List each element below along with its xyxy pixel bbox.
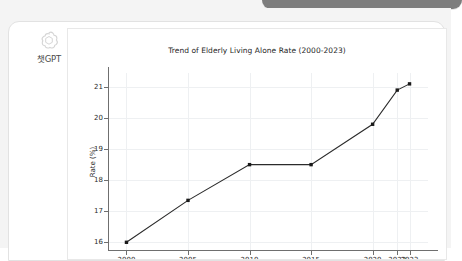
openai-knot-icon — [38, 30, 60, 52]
data-point — [371, 123, 374, 126]
y-tick-label: 18 — [94, 176, 103, 184]
brand-block: 챗GPT — [27, 30, 71, 64]
data-point — [408, 82, 411, 85]
x-tick-label: 2000 — [118, 256, 136, 260]
content-card: 챗GPT Trend of Elderly Living Alone Rate … — [8, 21, 445, 261]
x-tick — [410, 251, 411, 255]
x-tick — [311, 251, 312, 255]
data-point — [248, 163, 251, 166]
x-tick — [126, 251, 127, 255]
x-tick — [250, 251, 251, 255]
data-point — [125, 241, 128, 244]
x-tick — [188, 251, 189, 255]
chart-panel: Trend of Elderly Living Alone Rate (2000… — [67, 28, 447, 260]
y-tick-label: 20 — [94, 114, 103, 122]
page-surface: 챗GPT Trend of Elderly Living Alone Rate … — [0, 8, 451, 248]
series-markers — [125, 82, 411, 244]
data-point — [396, 88, 399, 91]
y-tick-label: 16 — [94, 238, 103, 246]
x-tick — [373, 251, 374, 255]
chart-title: Trend of Elderly Living Alone Rate (2000… — [68, 46, 446, 55]
data-point — [186, 199, 189, 202]
y-tick-label: 21 — [94, 83, 103, 91]
brand-label: 챗GPT — [27, 55, 71, 64]
y-tick-label: 17 — [94, 207, 103, 215]
series-layer — [108, 73, 428, 251]
y-axis-title: Rate (%) — [89, 147, 97, 177]
x-tick-label: 2023 — [401, 256, 419, 260]
x-tick-label: 2015 — [302, 256, 320, 260]
data-point — [309, 163, 312, 166]
x-tick-label: 2005 — [179, 256, 197, 260]
x-tick — [397, 251, 398, 255]
x-tick-label: 2010 — [241, 256, 259, 260]
series-line — [126, 84, 409, 242]
plot-area: 161718192021 200020052010201520202022202… — [108, 73, 428, 251]
x-tick-label: 2020 — [364, 256, 382, 260]
